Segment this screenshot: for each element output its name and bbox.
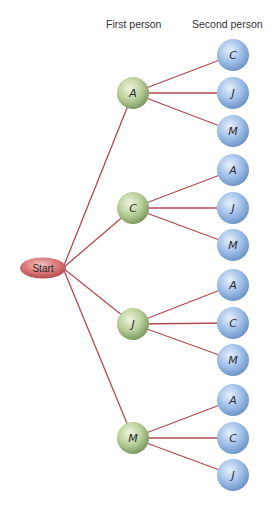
- second-person-node-C-M: M: [217, 229, 249, 261]
- node-label: C: [229, 317, 237, 330]
- node-label: A: [228, 164, 237, 177]
- first-person-node-A: A: [117, 77, 149, 109]
- second-person-node-C-J: J: [217, 192, 249, 224]
- second-person-node-M-A: A: [217, 384, 249, 416]
- node-label: M: [228, 125, 238, 138]
- second-person-node-C-A: A: [217, 154, 249, 186]
- first-person-node-J: J: [117, 308, 149, 340]
- edge-start-to-A: [63, 93, 133, 268]
- node-label: M: [128, 432, 138, 445]
- second-person-node-J-A: A: [217, 269, 249, 301]
- node-label: C: [129, 202, 137, 215]
- second-person-node-A-C: C: [217, 39, 249, 71]
- node-label: A: [128, 87, 137, 100]
- second-person-node-A-M: M: [217, 115, 249, 147]
- node-label: A: [228, 394, 237, 407]
- node-label: C: [229, 432, 237, 445]
- edge-A-to-M: [133, 93, 233, 131]
- first-person-node-M: M: [117, 422, 149, 454]
- second-person-node-J-M: M: [217, 344, 249, 376]
- edge-start-to-M: [63, 268, 133, 438]
- second-person-node-M-C: C: [217, 422, 249, 454]
- start-node: Start: [20, 258, 66, 279]
- second-person-node-M-J: J: [217, 459, 249, 491]
- node-label: M: [228, 354, 238, 367]
- edge-C-to-A: [133, 170, 233, 208]
- second-person-node-A-J: J: [217, 77, 249, 109]
- start-label: Start: [32, 263, 53, 274]
- node-label: C: [229, 49, 237, 62]
- node-label: A: [228, 279, 237, 292]
- edge-A-to-C: [133, 55, 233, 93]
- tree-diagram: StartACJMCAJMJACMMACJ: [0, 0, 278, 524]
- first-person-node-C: C: [117, 192, 149, 224]
- edge-M-to-A: [133, 400, 233, 438]
- node-label: M: [228, 239, 238, 252]
- second-person-node-J-C: C: [217, 307, 249, 339]
